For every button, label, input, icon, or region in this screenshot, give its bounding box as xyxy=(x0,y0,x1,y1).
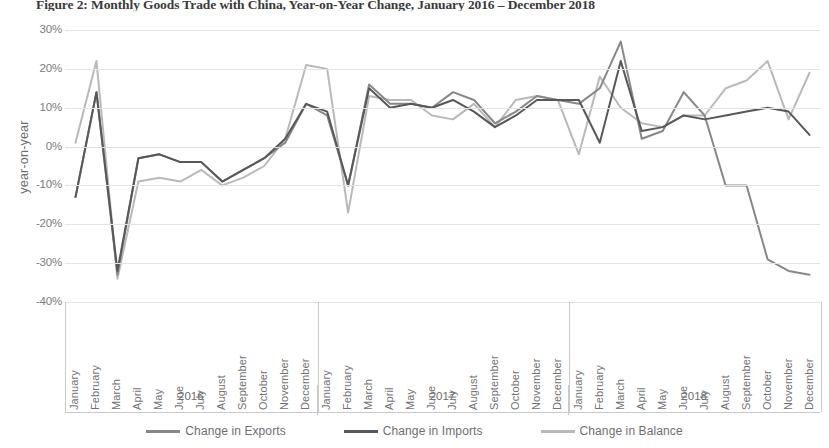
gridline xyxy=(65,69,820,70)
series-line xyxy=(75,42,809,275)
gridline xyxy=(65,147,820,148)
chart-container: year-on-year 30%20%10%0%-10%-20%-30%-40%… xyxy=(0,0,829,448)
x-axis-year-band: 201620172018 xyxy=(65,385,820,415)
series-line xyxy=(75,61,809,279)
year-separator xyxy=(568,385,569,415)
gridline xyxy=(65,263,820,264)
y-axis-tick-label: -20% xyxy=(14,217,62,229)
legend-label: Change in Exports xyxy=(185,424,285,438)
gridline xyxy=(65,224,820,225)
y-axis-tick-label: 10% xyxy=(14,101,62,113)
x-axis-year-label: 2017 xyxy=(317,390,569,402)
legend-line-icon xyxy=(541,430,575,433)
y-axis-tick-label: 20% xyxy=(14,62,62,74)
y-axis-tick-label: -10% xyxy=(14,178,62,190)
legend-item[interactable]: Change in Exports xyxy=(146,424,285,438)
legend-line-icon xyxy=(146,430,180,433)
x-axis-year-label: 2018 xyxy=(568,390,820,402)
y-axis-title: year-on-year xyxy=(17,97,31,217)
legend-line-icon xyxy=(344,430,378,433)
y-axis-tick-label: -30% xyxy=(14,256,62,268)
series-line xyxy=(75,61,809,271)
gridline xyxy=(65,185,820,186)
gridline xyxy=(65,30,820,31)
x-axis-year-label: 2016 xyxy=(65,390,317,402)
y-axis-tick-label: 0% xyxy=(14,140,62,152)
plot-area xyxy=(65,30,820,302)
legend-label: Change in Imports xyxy=(383,424,483,438)
axis-bottom-rule xyxy=(65,412,820,413)
chart-lines xyxy=(65,30,820,302)
y-axis-tick-label: 30% xyxy=(14,23,62,35)
legend-item[interactable]: Change in Balance xyxy=(541,424,683,438)
year-separator xyxy=(317,385,318,415)
y-axis-tick-label: -40% xyxy=(14,295,62,307)
legend-label: Change in Balance xyxy=(580,424,683,438)
chart-legend: Change in ExportsChange in ImportsChange… xyxy=(0,424,829,438)
gridline xyxy=(65,108,820,109)
legend-item[interactable]: Change in Imports xyxy=(344,424,483,438)
